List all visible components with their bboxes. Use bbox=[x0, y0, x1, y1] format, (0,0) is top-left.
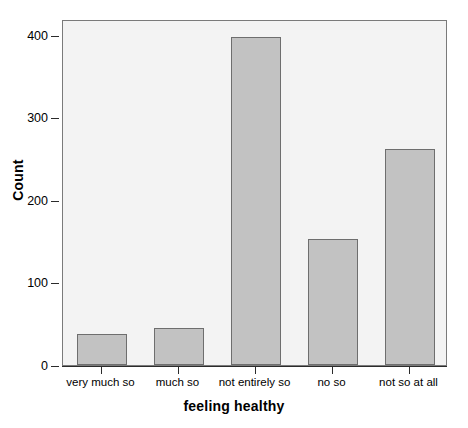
bar bbox=[154, 328, 204, 365]
y-tick-mark bbox=[51, 36, 59, 37]
bar bbox=[385, 149, 435, 365]
y-tick-label: 200 bbox=[27, 194, 48, 208]
x-tick-mark bbox=[101, 366, 102, 374]
y-axis-title: Count bbox=[10, 140, 26, 220]
x-axis-title: feeling healthy bbox=[0, 398, 468, 414]
y-tick-label: 300 bbox=[27, 111, 48, 125]
plot-area bbox=[62, 20, 447, 366]
bar bbox=[308, 239, 358, 365]
y-tick-label: 100 bbox=[27, 276, 48, 290]
bar bbox=[231, 37, 281, 365]
x-tick-mark bbox=[255, 366, 256, 374]
chart-figure: 0100200300400 Count very much somuch son… bbox=[0, 0, 468, 428]
x-tick-label: not entirely so bbox=[219, 376, 291, 388]
x-tick-mark bbox=[332, 366, 333, 374]
bars-layer bbox=[63, 21, 446, 365]
y-tick-label: 0 bbox=[41, 359, 48, 373]
x-tick-mark bbox=[409, 366, 410, 374]
y-tick-mark bbox=[51, 366, 59, 367]
x-tick-label: not so at all bbox=[379, 376, 438, 388]
x-tick-label: much so bbox=[156, 376, 199, 388]
y-tick-label: 400 bbox=[27, 29, 48, 43]
x-tick-label: very much so bbox=[66, 376, 134, 388]
x-tick-mark bbox=[178, 366, 179, 374]
y-tick-mark bbox=[51, 118, 59, 119]
bar bbox=[77, 334, 127, 365]
y-tick-mark bbox=[51, 201, 59, 202]
y-tick-mark bbox=[51, 283, 59, 284]
x-tick-label: no so bbox=[317, 376, 345, 388]
